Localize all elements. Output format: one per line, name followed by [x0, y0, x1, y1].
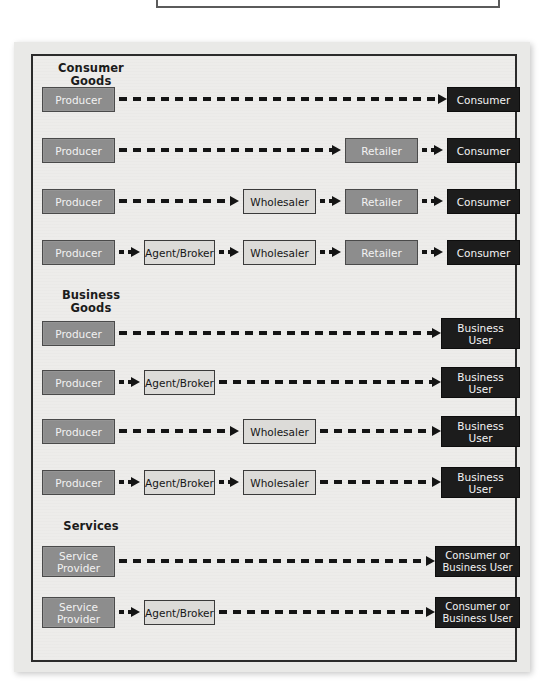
- arrow-wholesaler-to-retailer: [320, 249, 341, 255]
- dash-line: [320, 250, 332, 254]
- dash-line: [320, 199, 332, 203]
- node-producer[interactable]: Producer: [42, 87, 115, 112]
- node-business-user[interactable]: Business User: [441, 367, 520, 398]
- dash-line: [119, 559, 426, 563]
- node-consumer[interactable]: Consumer: [447, 138, 520, 163]
- arrow-head-icon: [438, 94, 447, 104]
- arrow-retailer-to-consumer: [422, 147, 443, 153]
- diagram-page: Consumer Goods Producer Consumer Produce…: [0, 0, 560, 696]
- diagram-frame: Consumer Goods Producer Consumer Produce…: [31, 54, 517, 662]
- arrow-agent-broker-to-endpoint: [219, 609, 435, 615]
- node-wholesaler[interactable]: Wholesaler: [243, 470, 316, 495]
- node-consumer[interactable]: Consumer: [447, 240, 520, 265]
- arrow-producer-to-wholesaler: [119, 428, 239, 434]
- node-retailer[interactable]: Retailer: [345, 189, 418, 214]
- dash-line: [219, 610, 426, 614]
- dash-line: [119, 97, 438, 101]
- section-heading-consumer-goods: Consumer Goods: [43, 62, 139, 88]
- node-retailer[interactable]: Retailer: [345, 138, 418, 163]
- arrow-head-icon: [432, 477, 441, 487]
- node-consumer-or-business-user[interactable]: Consumer or Business User: [435, 546, 520, 577]
- arrow-head-icon: [332, 145, 341, 155]
- dash-line: [219, 480, 230, 484]
- node-agent-broker[interactable]: Agent/Broker: [144, 370, 215, 395]
- node-business-user[interactable]: Business User: [441, 318, 520, 349]
- node-wholesaler[interactable]: Wholesaler: [243, 240, 316, 265]
- arrow-service-provider-to-agent-broker: [119, 609, 140, 615]
- arrow-head-icon: [131, 607, 140, 617]
- arrow-head-icon: [426, 607, 435, 617]
- arrow-retailer-to-consumer: [422, 249, 443, 255]
- arrow-producer-to-agent-broker: [119, 379, 140, 385]
- dash-line: [119, 429, 230, 433]
- node-business-user[interactable]: Business User: [441, 416, 520, 447]
- dash-line: [119, 480, 131, 484]
- arrow-producer-to-agent-broker: [119, 249, 140, 255]
- node-producer[interactable]: Producer: [42, 321, 115, 346]
- node-producer[interactable]: Producer: [42, 189, 115, 214]
- arrow-service-provider-to-endpoint: [119, 558, 435, 564]
- node-consumer[interactable]: Consumer: [447, 87, 520, 112]
- node-agent-broker[interactable]: Agent/Broker: [144, 470, 215, 495]
- arrow-head-icon: [432, 426, 441, 436]
- dash-line: [119, 331, 432, 335]
- node-producer[interactable]: Producer: [42, 370, 115, 395]
- partial-box-above: [156, 0, 500, 8]
- arrow-head-icon: [230, 247, 239, 257]
- arrow-head-icon: [434, 196, 443, 206]
- arrow-producer-to-retailer: [119, 147, 341, 153]
- dash-line: [320, 429, 432, 433]
- node-agent-broker[interactable]: Agent/Broker: [144, 240, 215, 265]
- arrow-producer-to-business-user: [119, 330, 441, 336]
- dash-line: [219, 380, 432, 384]
- arrow-head-icon: [131, 247, 140, 257]
- dash-line: [119, 148, 332, 152]
- arrow-head-icon: [332, 247, 341, 257]
- section-heading-services: Services: [43, 520, 139, 533]
- arrow-agent-broker-to-wholesaler: [219, 249, 239, 255]
- arrow-head-icon: [432, 328, 441, 338]
- node-agent-broker[interactable]: Agent/Broker: [144, 600, 215, 625]
- node-producer[interactable]: Producer: [42, 419, 115, 444]
- dash-line: [119, 250, 131, 254]
- node-wholesaler[interactable]: Wholesaler: [243, 189, 316, 214]
- arrow-wholesaler-to-business-user: [320, 479, 441, 485]
- arrow-head-icon: [332, 196, 341, 206]
- node-service-provider[interactable]: Service Provider: [42, 597, 115, 628]
- dash-line: [219, 250, 230, 254]
- arrow-producer-to-wholesaler: [119, 198, 239, 204]
- dash-line: [119, 380, 131, 384]
- arrow-wholesaler-to-business-user: [320, 428, 441, 434]
- node-retailer[interactable]: Retailer: [345, 240, 418, 265]
- arrow-wholesaler-to-retailer: [320, 198, 341, 204]
- node-service-provider[interactable]: Service Provider: [42, 546, 115, 577]
- dash-line: [422, 148, 434, 152]
- dash-line: [422, 199, 434, 203]
- arrow-head-icon: [230, 426, 239, 436]
- node-wholesaler[interactable]: Wholesaler: [243, 419, 316, 444]
- dash-line: [320, 480, 432, 484]
- node-producer[interactable]: Producer: [42, 240, 115, 265]
- node-consumer-or-business-user[interactable]: Consumer or Business User: [435, 597, 520, 628]
- arrow-head-icon: [432, 377, 441, 387]
- arrow-head-icon: [230, 196, 239, 206]
- arrow-retailer-to-consumer: [422, 198, 443, 204]
- arrow-producer-to-consumer: [119, 96, 447, 102]
- dash-line: [119, 199, 230, 203]
- node-consumer[interactable]: Consumer: [447, 189, 520, 214]
- arrow-agent-broker-to-wholesaler: [219, 479, 239, 485]
- arrow-head-icon: [131, 377, 140, 387]
- arrow-agent-broker-to-business-user: [219, 379, 441, 385]
- arrow-head-icon: [434, 247, 443, 257]
- arrow-head-icon: [131, 477, 140, 487]
- arrow-producer-to-agent-broker: [119, 479, 140, 485]
- node-business-user[interactable]: Business User: [441, 467, 520, 498]
- arrow-head-icon: [434, 145, 443, 155]
- arrow-head-icon: [426, 556, 435, 566]
- dash-line: [422, 250, 434, 254]
- node-producer[interactable]: Producer: [42, 470, 115, 495]
- section-heading-business-goods: Business Goods: [43, 289, 139, 315]
- arrow-head-icon: [230, 477, 239, 487]
- node-producer[interactable]: Producer: [42, 138, 115, 163]
- dash-line: [119, 610, 131, 614]
